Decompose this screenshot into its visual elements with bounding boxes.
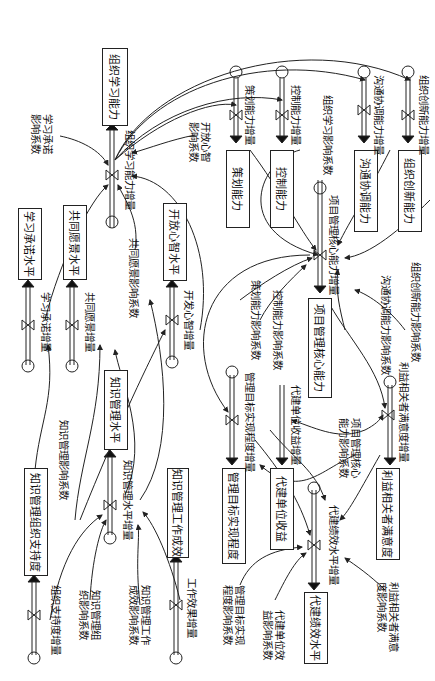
aux-km-org-coef: 知识管理组 织影响系数 [78, 590, 102, 640]
flow-shared-vision-inc: 共同愿景增量 [84, 292, 96, 352]
aux-innovation-coef: 组织创新能力影响系数 [410, 262, 422, 362]
stock-km-level: 知识管理水平 [104, 370, 128, 450]
stock-shared-vision: 共同愿景水平 [63, 205, 87, 280]
flow-org-learning-inc: 组织学习能力增量 [124, 130, 136, 210]
aux-shared-vision-coef: 共同愿景影响系数 [128, 238, 140, 318]
stock-communication: 沟通协调能力 [354, 150, 378, 232]
stock-agent-benefit: 代建单位收益 [270, 468, 294, 550]
flow-org-support-inc: 组织支持度增量 [50, 585, 62, 655]
stock-km-work-effect: 知识管理工作成效 [167, 468, 189, 558]
flow-stakeholder-inc: 利益相关者满意度增量 [398, 362, 410, 462]
aux-pm-core-coef: 项目管理核心 能力影响系数 [338, 418, 362, 478]
stock-control: 控制能力 [270, 150, 294, 228]
aux-km-coef: 知识管理影响系数 [58, 420, 70, 500]
flow-km-level-inc: 知识管理水平增量 [122, 460, 134, 540]
aux-learning-commit-coef: 学习承诺 影响系数 [30, 114, 54, 154]
flow-mgmt-goal-inc: 管理目标实现程度增量 [244, 372, 256, 472]
flow-planning-inc: 策划能力增量 [244, 85, 256, 145]
stock-innovation: 组织创新能力 [398, 150, 422, 232]
aux-open-mind-coef: 开放心智 影响系数 [188, 122, 212, 162]
stock-agent-perf: 代建绩效水平 [304, 592, 328, 664]
stock-planning: 策划能力 [226, 150, 250, 228]
connections-layer [0, 0, 435, 681]
aux-agent-benefit-coef: 代建单位效 益影响系数 [262, 610, 286, 660]
stock-stakeholder-sat: 利益相关者满意度 [376, 468, 400, 560]
stock-learning-commit: 学习承诺水平 [18, 208, 42, 280]
flow-communication-inc: 沟通协调能力增量 [373, 75, 385, 155]
flow-open-mind-inc: 开发心智增量 [183, 290, 195, 350]
stock-open-mind: 开放心智水平 [163, 203, 187, 281]
flow-work-effect-inc: 工作效果增量 [186, 578, 198, 638]
aux-planning-coef: 策划能力影响系数 [250, 280, 262, 360]
flow-learning-commit-inc: 学习承诺增量 [40, 292, 52, 352]
aux-stakeholder-coef: 利益相关者满意 度影响系数 [376, 582, 400, 652]
stock-pm-core: 项目管理核心能力 [308, 298, 332, 398]
stock-mgmt-goal: 管理目标实现程度 [222, 468, 246, 564]
aux-control-coef: 控制能力影响系数 [272, 290, 284, 370]
flow-control-inc: 控制能力增量 [290, 85, 302, 145]
flow-agent-perf-inc: 代建绩效水平增量 [328, 505, 340, 585]
aux-km-work-coef: 知识管理工作 成效影响系数 [128, 585, 152, 645]
flow-agent-benefit-inc: 代建单位收益增量 [290, 385, 302, 465]
aux-org-learning-coef: 组织学习影响系数 [322, 95, 334, 175]
stock-org-learning: 组织学习能力 [102, 48, 128, 126]
aux-mgmt-goal-coef: 管理目标实现 程度影响系数 [222, 585, 246, 645]
aux-communication-coef: 沟通协调能力影响系数 [380, 275, 392, 375]
stock-km-org-support: 知识管理组织支持度 [24, 468, 48, 576]
flow-pm-core-inc: 项目管理核心能力增量 [328, 195, 340, 295]
flow-innovation-inc: 组织创新能力增量 [418, 75, 430, 155]
